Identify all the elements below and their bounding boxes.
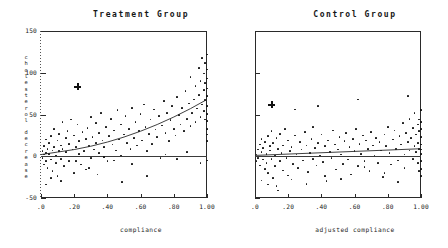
y-tick-label: 0 [15,152,37,159]
x-tick-label: .0 [242,203,268,210]
plot-area-treatment [41,31,207,198]
y-tick-label: 50 [15,111,37,118]
x-tick-label: 1.00 [408,203,434,210]
y-tick-label: -50 [15,194,37,201]
x-tick-label: .40 [94,203,120,210]
x-axis-label-control: adjusted compliance [292,226,418,233]
x-tick-label: .60 [342,203,368,210]
y-tick-mark [255,198,260,199]
fit-curve [255,31,421,198]
x-tick-label: .20 [61,203,87,210]
ylabel-char: e [21,173,31,179]
x-tick-label: .80 [375,203,401,210]
x-tick-mark [421,194,422,198]
x-tick-label: .20 [275,203,301,210]
x-tick-label: .80 [161,203,187,210]
x-tick-label: 1.00 [194,203,220,210]
panel-title-treatment: Treatment Group [78,10,204,19]
x-tick-label: .40 [308,203,334,210]
plus-marker [74,83,81,90]
x-axis-label-treatment: compliance [78,226,204,233]
y-tick-mark [41,198,46,199]
x-tick-label: .0 [28,203,54,210]
x-tick-mark [207,194,208,198]
figure-two-panel-scatter: Treatment Group Control Group cholestero… [0,0,448,248]
y-tick-label: 150 [15,27,37,34]
plot-area-control [255,31,421,198]
panel-title-control: Control Group [292,10,418,19]
x-tick-label: .60 [128,203,154,210]
fit-curve [41,31,207,198]
y-tick-label: 100 [15,69,37,76]
plus-marker [268,101,275,108]
